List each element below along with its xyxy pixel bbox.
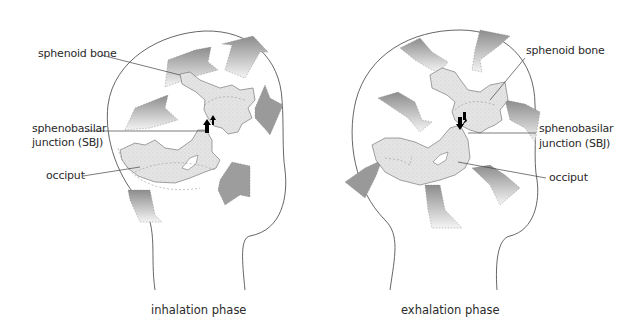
- label-occiput-exhalation: occiput: [549, 171, 588, 184]
- arrow-top-right: [222, 36, 268, 78]
- arrow-top-right: [472, 30, 510, 72]
- label-sbj-line1-inhalation: sphenobasilar: [32, 122, 106, 135]
- arrow-left: [378, 92, 432, 132]
- arrow-lower-right: [218, 162, 250, 205]
- label-sbj-line2-exhalation: junction (SBJ): [539, 137, 610, 150]
- exhalation-panel: [345, 30, 546, 290]
- label-sphenoid-bone-exhalation: sphenoid bone: [526, 44, 605, 57]
- label-sphenoid-bone-inhalation: sphenoid bone: [38, 47, 117, 60]
- arrow-lower-left: [345, 160, 382, 198]
- caption-exhalation-phase: exhalation phase: [401, 303, 500, 317]
- inward-arrows: [345, 30, 540, 228]
- label-occiput-inhalation: occiput: [46, 169, 85, 182]
- arrow-lower-right: [472, 165, 520, 205]
- occiput-bone: [120, 130, 220, 183]
- arrow-right: [255, 85, 283, 135]
- leader-occiput: [83, 167, 140, 176]
- label-sbj-line1-exhalation: sphenobasilar: [539, 122, 613, 135]
- arrow-lower-mid: [425, 185, 462, 228]
- arrow-top-left: [400, 38, 448, 72]
- caption-inhalation-phase: inhalation phase: [151, 303, 246, 317]
- outward-arrows: [125, 36, 283, 222]
- label-sbj-line2-inhalation: junction (SBJ): [32, 136, 103, 149]
- occiput-bone: [372, 125, 470, 185]
- sphenoid-bone: [430, 68, 508, 133]
- sphenoid-bone: [180, 72, 255, 134]
- leader-sphenoid: [490, 58, 525, 100]
- arrow-left: [125, 95, 178, 130]
- inhalation-panel: [83, 31, 286, 290]
- arrow-lower-left: [128, 190, 162, 222]
